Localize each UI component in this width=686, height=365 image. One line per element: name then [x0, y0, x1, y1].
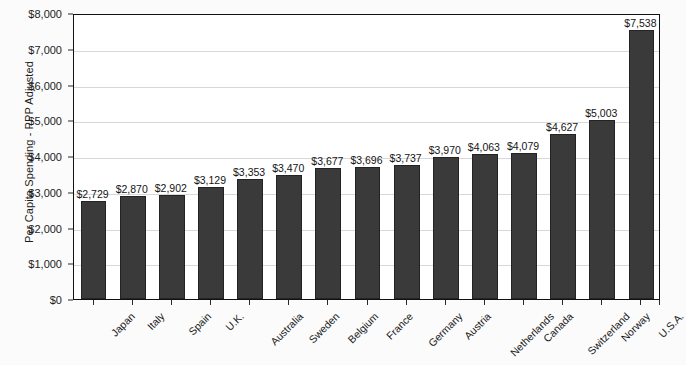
- x-axis-category-label: Spain: [186, 310, 213, 337]
- y-axis-tick-mark: [68, 49, 73, 50]
- x-axis-category-label: Belgium: [345, 310, 380, 345]
- x-axis-category-label: Austria: [461, 310, 493, 342]
- x-axis-category-label: Australia: [268, 310, 305, 347]
- x-axis-category-label: Japan: [108, 310, 137, 339]
- x-axis-category-label: Sweden: [306, 310, 341, 345]
- y-axis-tick-mark: [68, 121, 73, 122]
- y-axis-tick-mark: [68, 228, 73, 229]
- y-axis-tick-mark: [68, 85, 73, 86]
- y-axis-tick-mark: [68, 192, 73, 193]
- y-axis-tick-mark: [68, 300, 73, 301]
- x-axis-category-label: U.K.: [223, 310, 246, 333]
- y-axis-tick-mark: [68, 264, 73, 265]
- x-axis-category-label: Germany: [425, 310, 464, 349]
- x-axis-category-label: U.S.A.: [656, 310, 686, 340]
- x-axis-category-label: France: [383, 310, 415, 342]
- x-axis-category-label: Italy: [144, 310, 166, 332]
- y-axis-tick-mark: [68, 157, 73, 158]
- y-axis-tick-mark: [68, 14, 73, 15]
